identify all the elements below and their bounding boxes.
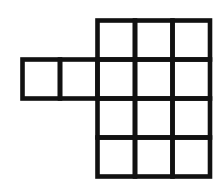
grid-cell-r1c3 [98, 21, 136, 60]
grid-cell-r3c4 [135, 99, 173, 138]
grid-cell-r2c2 [60, 60, 98, 99]
grid-cell-r2c3 [98, 60, 136, 99]
grid-cell-r1c5 [173, 21, 211, 60]
grid-cell-r1c4 [135, 21, 173, 60]
grid-cell-r4c5 [173, 138, 211, 177]
grid-cell-r2c1 [23, 60, 61, 99]
grid-cell-r3c5 [173, 99, 211, 138]
grid-cell-r4c4 [135, 138, 173, 177]
grid-cell-r2c5 [173, 60, 211, 99]
figure-canvas [0, 0, 220, 187]
grid-cell-r4c3 [98, 138, 136, 177]
grid-cell-r3c3 [98, 99, 136, 138]
grid-cell-r2c4 [135, 60, 173, 99]
grid-figure-svg [0, 0, 220, 187]
